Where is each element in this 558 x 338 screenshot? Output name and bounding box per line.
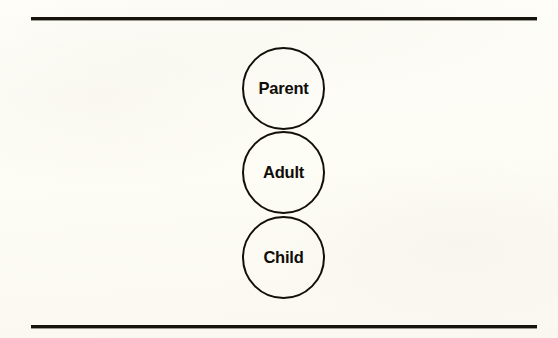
top-horizontal-rule: [31, 17, 537, 20]
ego-state-circle-adult: Adult: [242, 131, 325, 214]
ego-state-label-child: Child: [263, 249, 303, 266]
ego-state-diagram: Parent Adult Child: [242, 47, 327, 302]
ego-state-circle-parent: Parent: [242, 47, 325, 130]
bottom-horizontal-rule: [31, 325, 537, 328]
ego-state-label-adult: Adult: [263, 164, 304, 181]
ego-state-label-parent: Parent: [258, 80, 308, 97]
figure-canvas: Parent Adult Child: [0, 0, 558, 338]
ego-state-circle-child: Child: [242, 216, 325, 299]
